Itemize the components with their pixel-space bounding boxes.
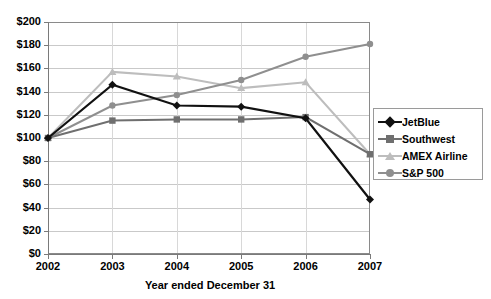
gridline xyxy=(49,68,369,69)
x-tick-label: 2002 xyxy=(23,260,73,272)
y-tick-label: $80 xyxy=(23,155,41,166)
y-tick-label: $140 xyxy=(17,86,41,97)
y-tick-label: $160 xyxy=(17,62,41,73)
x-tick xyxy=(306,254,307,259)
y-tick xyxy=(44,161,49,162)
y-tick xyxy=(44,208,49,209)
x-tick xyxy=(241,254,242,259)
x-gridline xyxy=(306,23,307,253)
x-tick xyxy=(48,254,49,259)
y-tick-label: $120 xyxy=(17,109,41,120)
sp500-marker-icon xyxy=(378,166,402,180)
gridline xyxy=(49,208,369,209)
x-gridline xyxy=(241,23,242,253)
y-tick-label: $60 xyxy=(23,178,41,189)
plot-area xyxy=(48,22,370,254)
gridline xyxy=(49,45,369,46)
x-tick xyxy=(112,254,113,259)
y-tick-label: $200 xyxy=(17,16,41,27)
legend-item-southwest[interactable]: Southwest xyxy=(378,130,482,147)
x-tick xyxy=(370,254,371,259)
x-gridline xyxy=(177,23,178,253)
y-tick xyxy=(44,184,49,185)
y-tick xyxy=(44,231,49,232)
y-tick-label: $20 xyxy=(23,225,41,236)
jetblue-marker-icon xyxy=(378,115,402,129)
y-tick xyxy=(44,138,49,139)
stock-performance-chart: $0$20$40$60$80$100$120$140$160$180$200 2… xyxy=(0,0,491,299)
y-tick xyxy=(44,115,49,116)
legend-item-amex-airline[interactable]: AMEX Airline xyxy=(378,147,482,164)
x-axis-line xyxy=(48,254,371,255)
y-tick xyxy=(44,45,49,46)
gridline xyxy=(49,184,369,185)
chart-legend: JetBlue Southwest AMEX Airline S&P 500 xyxy=(373,108,483,180)
legend-label: Southwest xyxy=(402,133,455,145)
legend-item-jetblue[interactable]: JetBlue xyxy=(378,113,482,130)
y-tick-label: $180 xyxy=(17,39,41,50)
x-tick xyxy=(177,254,178,259)
y-tick-label: $0 xyxy=(29,248,41,259)
x-axis-title: Year ended December 31 xyxy=(0,279,420,291)
legend-label: AMEX Airline xyxy=(402,150,468,162)
y-tick xyxy=(44,68,49,69)
legend-item-sp500[interactable]: S&P 500 xyxy=(378,164,482,181)
southwest-marker-icon xyxy=(378,132,402,146)
legend-label: JetBlue xyxy=(402,116,440,128)
gridline xyxy=(49,231,369,232)
x-tick-label: 2007 xyxy=(345,260,395,272)
y-tick-label: $40 xyxy=(23,202,41,213)
gridline xyxy=(49,92,369,93)
legend-label: S&P 500 xyxy=(402,167,444,179)
x-tick-label: 2006 xyxy=(281,260,331,272)
amex-airline-marker-icon xyxy=(378,149,402,163)
y-tick xyxy=(44,92,49,93)
gridline xyxy=(49,138,369,139)
x-tick-label: 2003 xyxy=(87,260,137,272)
gridline xyxy=(49,161,369,162)
x-tick-label: 2004 xyxy=(152,260,202,272)
y-tick-label: $100 xyxy=(17,132,41,143)
x-tick-label: 2005 xyxy=(216,260,266,272)
gridline xyxy=(49,115,369,116)
y-tick xyxy=(44,22,49,23)
x-gridline xyxy=(112,23,113,253)
